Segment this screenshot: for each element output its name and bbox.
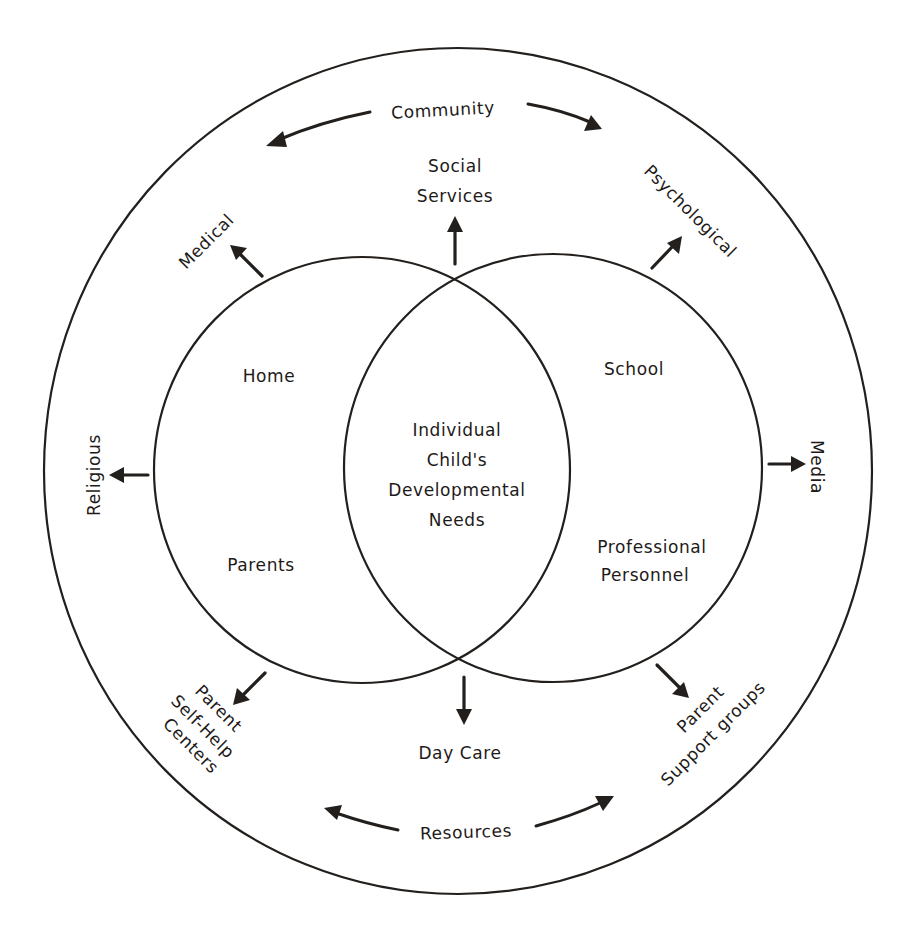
center-label-line3: Developmental (388, 480, 525, 500)
resources-label: Resources (420, 820, 513, 843)
center-label-line2: Child's (427, 450, 488, 470)
center-label-line1: Individual (413, 420, 502, 440)
social-services-label-line2: Services (417, 186, 494, 206)
resources-arrow-left (324, 805, 398, 830)
day-care-label: Day Care (418, 743, 501, 763)
home-circle (154, 257, 570, 683)
community-arrow-right (528, 104, 602, 131)
parents-label: Parents (227, 555, 294, 575)
religious-arrow (109, 467, 148, 483)
school-circle (344, 254, 762, 682)
diagram-canvas: Community Resources Social Services Medi… (0, 0, 906, 930)
professional-label: Professional (597, 537, 706, 557)
medical-arrow (230, 245, 262, 276)
day-care-arrow (456, 677, 472, 725)
social-services-arrow (447, 216, 463, 264)
community-arrow-left (266, 112, 370, 147)
resources-arrow-right (536, 796, 614, 826)
home-label: Home (243, 366, 296, 386)
psychological-label: Psychological (640, 161, 741, 262)
psychological-arrow (652, 236, 682, 268)
religious-label: Religious (84, 434, 104, 516)
community-label: Community (391, 97, 496, 122)
parent-support-arrow (657, 665, 689, 698)
school-label: School (604, 359, 664, 379)
social-services-label-line1: Social (428, 156, 482, 176)
media-label: Media (807, 440, 827, 494)
personnel-label: Personnel (601, 565, 689, 585)
media-arrow (769, 456, 806, 472)
parent-self-help-arrow (233, 673, 265, 705)
center-label-line4: Needs (429, 510, 485, 530)
medical-label: Medical (175, 210, 238, 273)
